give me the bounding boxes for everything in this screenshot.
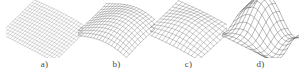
mesh-line-u — [222, 33, 274, 58]
mesh-line-v — [155, 5, 189, 37]
mesh-line-v — [222, 8, 251, 34]
mesh-line-u — [104, 6, 155, 27]
mesh-wireframe — [6, 0, 83, 58]
mesh-line-v — [91, 5, 125, 38]
mesh-line-u — [222, 33, 271, 58]
mesh-line-v — [78, 3, 107, 34]
mesh-line-u — [175, 4, 227, 31]
mesh-line-v — [266, 37, 299, 58]
mesh-line-u — [151, 27, 205, 54]
subfigure-caption-a: a) — [6, 58, 83, 70]
mesh-line-v — [23, 10, 57, 45]
mesh-line-v — [103, 8, 137, 41]
mesh-line-v — [32, 15, 66, 50]
mesh-line-u — [78, 35, 127, 58]
subfigure-b: b) — [78, 0, 155, 79]
mesh-line-v — [112, 13, 146, 46]
surface-plot-b — [78, 0, 155, 58]
mesh-wireframe — [150, 1, 227, 58]
mesh-line-u — [150, 33, 199, 58]
mesh-line-v — [30, 14, 64, 49]
mesh-line-v — [150, 2, 182, 34]
mesh-line-u — [154, 25, 208, 52]
mesh-line-v — [18, 8, 52, 43]
mesh-line-v — [37, 18, 71, 53]
mesh-wireframe — [222, 0, 299, 58]
surface-plot-c — [150, 0, 227, 58]
mesh-line-u — [172, 7, 226, 34]
subfigure-caption-d: d) — [222, 58, 299, 70]
mesh-line-v — [15, 7, 49, 41]
subfigure-d: d) — [222, 0, 299, 79]
surface-plot-a — [6, 0, 83, 58]
subfigure-caption-c: c) — [150, 58, 227, 70]
mesh-line-v — [79, 4, 113, 36]
mesh-line-v — [10, 4, 44, 38]
mesh-line-v — [20, 9, 54, 44]
mesh-wireframe — [78, 3, 155, 57]
mesh-line-u — [179, 1, 228, 28]
mesh-line-v — [8, 3, 42, 37]
mesh-line-v — [13, 5, 47, 39]
mesh-line-u — [247, 0, 299, 38]
mesh-line-v — [177, 16, 211, 48]
mesh-line-v — [28, 13, 62, 48]
figure-panel: a)b)c)d) — [0, 0, 308, 79]
subfigure-caption-b: b) — [78, 58, 155, 70]
mesh-line-v — [181, 18, 215, 50]
mesh-line-u — [6, 29, 59, 57]
mesh-line-u — [251, 0, 300, 38]
mesh-line-v — [250, 20, 284, 49]
mesh-line-v — [35, 17, 69, 52]
mesh-line-v — [40, 19, 74, 53]
subfigure-a: a) — [6, 0, 83, 79]
subfigure-c: c) — [150, 0, 227, 79]
mesh-line-v — [115, 15, 149, 48]
surface-plot-d — [222, 0, 299, 58]
mesh-line-v — [25, 11, 59, 46]
